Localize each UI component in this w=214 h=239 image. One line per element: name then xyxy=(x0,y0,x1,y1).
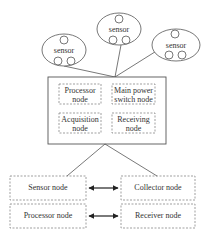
sensor-label-right: sensor xyxy=(156,41,196,50)
sensor-node-label: Sensor node xyxy=(10,183,86,193)
label-line: Receiving xyxy=(112,115,155,124)
hub-links xyxy=(67,144,157,176)
wireless-sensor-network-diagram: sensor sensor sensor Processor node Main… xyxy=(0,0,214,239)
label-line: Main power xyxy=(110,86,157,95)
label-line: switch node xyxy=(110,95,157,104)
hub-node-acquisition-label: Acquisition node xyxy=(57,115,103,133)
label-line: Processor xyxy=(59,86,101,95)
hub-node-receiving-label: Receiving node xyxy=(112,115,155,133)
hub-node-main-power-label: Main power switch node xyxy=(110,86,157,104)
hub-node-processor-label: Processor node xyxy=(59,86,101,104)
collector-node-label: Collector node xyxy=(121,183,195,193)
receiver-node-label: Receiver node xyxy=(121,211,195,221)
label-line: node xyxy=(57,124,103,133)
sensor-label-left: sensor xyxy=(44,46,84,55)
processor-node-label: Processor node xyxy=(10,211,86,221)
sensor-label-middle: sensor xyxy=(99,25,139,34)
label-line: node xyxy=(112,124,155,133)
label-line: node xyxy=(59,95,101,104)
label-line: Acquisition xyxy=(57,115,103,124)
